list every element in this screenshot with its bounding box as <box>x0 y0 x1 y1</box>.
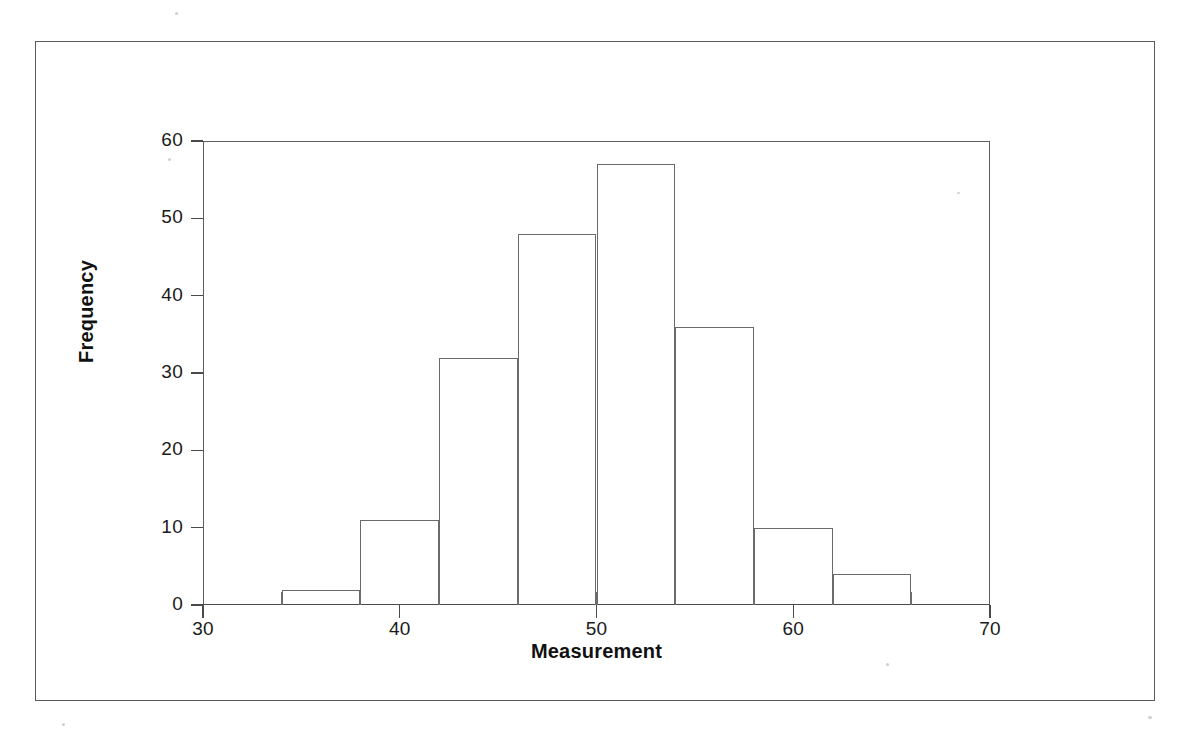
x-axis-bin-tick <box>832 592 833 605</box>
x-axis-tick-label: 50 <box>574 618 620 640</box>
scan-speckle <box>175 12 178 15</box>
x-axis-tick <box>793 605 794 618</box>
scan-speckle <box>1148 716 1152 719</box>
x-axis-bin-tick <box>281 592 282 605</box>
x-axis-bin-tick <box>753 592 754 605</box>
histogram-figure: Frequency 0102030405060 Measurement 3040… <box>0 0 1189 736</box>
x-axis-tick <box>989 605 990 618</box>
x-axis: Measurement 3040506070 <box>0 0 1189 736</box>
x-axis-bin-tick <box>911 592 912 605</box>
scan-speckle <box>957 192 960 194</box>
scan-speckle <box>886 663 889 666</box>
x-axis-tick <box>202 605 203 618</box>
x-axis-bin-tick <box>675 592 676 605</box>
x-axis-tick <box>399 605 400 618</box>
x-axis-tick-label: 70 <box>967 618 1013 640</box>
x-axis-tick <box>596 605 597 618</box>
x-axis-bin-tick <box>596 592 597 605</box>
x-axis-tick-label: 30 <box>180 618 226 640</box>
x-axis-tick-label: 40 <box>377 618 423 640</box>
x-axis-title: Measurement <box>203 640 990 663</box>
x-axis-bin-tick <box>360 592 361 605</box>
x-axis-bin-tick <box>517 592 518 605</box>
x-axis-tick-label: 60 <box>770 618 816 640</box>
scan-speckle <box>168 158 171 161</box>
scan-speckle <box>62 723 65 726</box>
x-axis-bin-tick <box>439 592 440 605</box>
